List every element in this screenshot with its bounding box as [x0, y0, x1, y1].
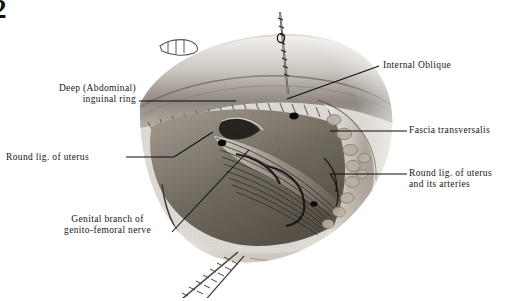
- label-fascia-transversalis: Fascia transversalis: [409, 125, 515, 136]
- label-round-lig-of-uterus-and-its-arteries: Round lig. of uterus and its arteries: [409, 168, 515, 190]
- label-internal-oblique: Internal Oblique: [383, 60, 513, 71]
- label-genital-branch-genito-femoral-nerve: Genital branch of genito-femoral nerve: [40, 214, 175, 236]
- page-number: 2: [0, 0, 7, 23]
- label-round-lig-of-uterus: Round lig. of uterus: [6, 152, 122, 163]
- figure-page: 2: [0, 0, 515, 301]
- anatomical-illustration: [118, 8, 408, 298]
- label-deep-inguinal-ring: Deep (Abdominal) inguinal ring: [26, 83, 136, 105]
